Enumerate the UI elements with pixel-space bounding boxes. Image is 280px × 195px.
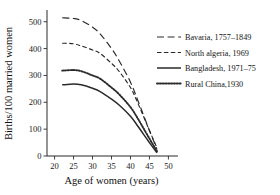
- x-tick-label-50: 50: [164, 161, 173, 171]
- legend-label-0: Bavaria, 1757–1849: [185, 33, 251, 42]
- y-tick-label-0: 0: [37, 151, 41, 161]
- y-tick-label-400: 400: [29, 44, 42, 54]
- y-tick-label-500: 500: [29, 17, 42, 27]
- x-axis-title: Age of women (years): [64, 175, 159, 187]
- series-line-3: [62, 70, 157, 151]
- x-tick-label-40: 40: [126, 161, 135, 171]
- legend-label-1: North algeria, 1969: [185, 49, 249, 58]
- x-tick-label-45: 45: [145, 161, 154, 171]
- x-tick-label-30: 30: [88, 161, 97, 171]
- legend-label-3: Rural China,1930: [185, 80, 243, 89]
- y-tick-label-200: 200: [29, 97, 42, 107]
- x-tick-label-35: 35: [107, 161, 116, 171]
- y-tick-label-300: 300: [29, 70, 42, 80]
- y-axis-title: Births/100 married women: [3, 26, 14, 140]
- x-tick-label-25: 25: [69, 161, 78, 171]
- legend-label-2: Bangladesh, 1971–75: [185, 64, 256, 73]
- series-line-2: [62, 84, 157, 153]
- y-tick-label-100: 100: [29, 124, 42, 134]
- chart-figure: 010020030040050020253035404550Age of wom…: [0, 0, 280, 195]
- line-chart: 010020030040050020253035404550Age of wom…: [0, 0, 280, 195]
- x-tick-label-20: 20: [50, 161, 59, 171]
